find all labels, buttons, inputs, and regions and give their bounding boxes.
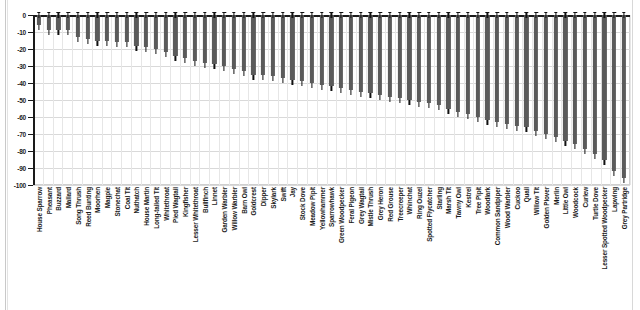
x-tick-label: Grey Wagtail	[357, 187, 364, 224]
gridline-horizontal	[33, 185, 630, 186]
bar[interactable]	[359, 15, 363, 92]
error-bar-lower	[214, 64, 215, 69]
bar[interactable]	[544, 15, 548, 134]
error-bar-lower	[175, 56, 176, 61]
bar[interactable]	[261, 15, 265, 75]
error-bar-upper	[282, 12, 283, 18]
error-bar-lower	[38, 25, 39, 30]
bar[interactable]	[534, 15, 538, 131]
x-tick-label: House Martin	[143, 187, 150, 226]
error-bar-upper	[87, 12, 88, 18]
bar[interactable]	[232, 15, 236, 69]
bar[interactable]	[368, 15, 372, 93]
bar[interactable]	[388, 15, 392, 97]
bar[interactable]	[144, 15, 148, 47]
error-bar-lower	[594, 154, 595, 159]
bar[interactable]	[281, 15, 285, 78]
error-bar-cap	[534, 12, 537, 13]
bar[interactable]	[300, 15, 304, 81]
error-bar-upper	[107, 12, 108, 18]
x-label-slot: Ring Ouzel	[414, 187, 424, 297]
bar[interactable]	[495, 15, 499, 122]
bar-slot	[453, 15, 463, 185]
bar-slot	[317, 15, 327, 185]
bar[interactable]	[398, 15, 402, 98]
bar[interactable]	[242, 15, 246, 71]
error-bar-upper	[224, 12, 225, 18]
bar[interactable]	[417, 15, 421, 102]
x-tick-label: Pied Wagtail	[172, 187, 179, 223]
x-tick-label: Turtle Dove	[591, 187, 598, 220]
bar[interactable]	[154, 15, 158, 49]
bar[interactable]	[183, 15, 187, 58]
error-bar-cap	[544, 12, 547, 13]
bar[interactable]	[515, 15, 519, 126]
bar[interactable]	[427, 15, 431, 103]
error-bar-upper	[428, 12, 429, 18]
x-label-slot: Lesser Spotted Woodpecker	[600, 187, 610, 297]
error-bar-upper	[194, 12, 195, 18]
x-tick-label: Ring Ouzel	[416, 187, 423, 219]
error-bar-upper	[380, 12, 381, 18]
bar[interactable]	[554, 15, 558, 137]
bar[interactable]	[329, 15, 333, 86]
bar[interactable]	[320, 15, 324, 85]
bar[interactable]	[86, 15, 90, 39]
bar-slot	[200, 15, 210, 185]
bar[interactable]	[125, 15, 129, 42]
bar[interactable]	[164, 15, 168, 52]
bar[interactable]	[583, 15, 587, 149]
x-tick-label: Kestrel	[464, 187, 471, 208]
bar[interactable]	[485, 15, 489, 120]
bar[interactable]	[95, 15, 99, 41]
bar[interactable]	[378, 15, 382, 95]
bar[interactable]	[466, 15, 470, 114]
bar[interactable]	[271, 15, 275, 76]
bar[interactable]	[134, 15, 138, 46]
bar[interactable]	[310, 15, 314, 83]
x-label-slot: Moorhen	[93, 187, 103, 297]
bar[interactable]	[251, 15, 255, 75]
bar[interactable]	[349, 15, 353, 90]
bar[interactable]	[339, 15, 343, 88]
bar-slot	[346, 15, 356, 185]
bar-slot	[414, 15, 424, 185]
bar-slot	[44, 15, 54, 185]
bar[interactable]	[505, 15, 509, 124]
bar[interactable]	[456, 15, 460, 112]
bar[interactable]	[76, 15, 80, 37]
bar[interactable]	[602, 15, 606, 160]
error-bar-upper	[526, 12, 527, 18]
bar-slot	[307, 15, 317, 185]
error-bar-upper	[243, 12, 244, 18]
bar[interactable]	[476, 15, 480, 117]
bar[interactable]	[290, 15, 294, 80]
x-tick-label: Meadow Pipit	[308, 187, 315, 226]
bar[interactable]	[573, 15, 577, 144]
bar[interactable]	[437, 15, 441, 105]
bar[interactable]	[173, 15, 177, 56]
bar-slot	[541, 15, 551, 185]
x-tick-label: Garden Warbler	[221, 187, 228, 233]
bar[interactable]	[563, 15, 567, 141]
bar-slot	[366, 15, 376, 185]
x-label-slot: Curlew	[580, 187, 590, 297]
bar[interactable]	[222, 15, 226, 66]
bar[interactable]	[524, 15, 528, 127]
error-bar-lower	[555, 137, 556, 142]
error-bar-lower	[526, 127, 527, 132]
bar[interactable]	[115, 15, 119, 42]
bar[interactable]	[446, 15, 450, 109]
bar[interactable]	[203, 15, 207, 63]
x-tick-label: Whinchat	[406, 187, 413, 215]
bar[interactable]	[407, 15, 411, 100]
bar[interactable]	[593, 15, 597, 154]
bar[interactable]	[105, 15, 109, 41]
error-bar-cap	[339, 12, 342, 13]
bar[interactable]	[622, 15, 626, 178]
y-tick-label: -20	[17, 46, 26, 53]
bar[interactable]	[612, 15, 616, 171]
bar[interactable]	[212, 15, 216, 64]
bar-slot	[385, 15, 395, 185]
bar[interactable]	[193, 15, 197, 61]
